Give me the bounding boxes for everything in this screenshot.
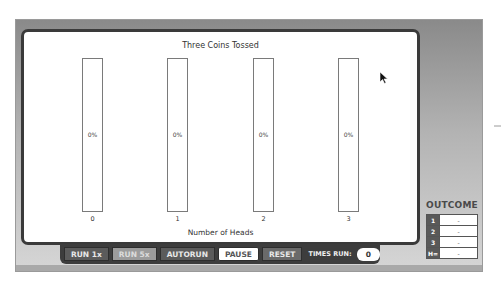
- outcome-value: -: [440, 248, 478, 259]
- bar-percent-label: 0%: [83, 131, 102, 138]
- arrow-left-icon: [494, 124, 501, 128]
- times-run-label: TIMES RUN:: [308, 250, 351, 258]
- coin-toss-simulation: Three Coins Tossed 0% 0% 0% 0% 0 1 2 3 N…: [0, 0, 501, 284]
- run-1x-button[interactable]: RUN 1x: [64, 247, 109, 261]
- bar-percent-label: 0%: [168, 131, 187, 138]
- outcome-key: H=: [427, 248, 440, 259]
- bar-heads-3: 0%: [338, 58, 359, 212]
- outcome-value: -: [440, 215, 478, 226]
- x-axis-label: Number of Heads: [24, 228, 417, 237]
- x-tick-label: 0: [82, 215, 103, 223]
- bar-heads-1: 0%: [167, 58, 188, 212]
- control-bar: RUN 1x RUN 5x AUTORUN PAUSE RESET TIMES …: [60, 244, 380, 264]
- run-5x-button[interactable]: RUN 5x: [112, 247, 157, 261]
- bar-percent-label: 0%: [339, 131, 358, 138]
- outcome-row: 3 -: [427, 237, 478, 248]
- x-tick-label: 3: [338, 215, 359, 223]
- outcome-title: OUTCOME: [426, 200, 478, 213]
- pause-button[interactable]: PAUSE: [218, 247, 259, 261]
- x-tick-label: 2: [253, 215, 274, 223]
- bar-heads-2: 0%: [253, 58, 274, 212]
- outcome-key: 3: [427, 237, 440, 248]
- outcome-row: 2 -: [427, 226, 478, 237]
- outcome-key: 1: [427, 215, 440, 226]
- outcome-key: 2: [427, 226, 440, 237]
- outcome-value: -: [440, 237, 478, 248]
- outcome-row: H= -: [427, 248, 478, 259]
- outcome-row: 1 -: [427, 215, 478, 226]
- chart-title: Three Coins Tossed: [24, 41, 417, 50]
- chart-panel: Three Coins Tossed 0% 0% 0% 0% 0 1 2 3 N…: [21, 29, 420, 245]
- bar-percent-label: 0%: [254, 131, 273, 138]
- outcome-value: -: [440, 226, 478, 237]
- bar-heads-0: 0%: [82, 58, 103, 212]
- times-run-value: 0: [357, 248, 380, 261]
- autorun-button[interactable]: AUTORUN: [160, 247, 215, 261]
- reset-button[interactable]: RESET: [262, 247, 303, 261]
- outcome-panel: OUTCOME 1 - 2 - 3 - H= -: [426, 200, 478, 259]
- outcome-table: 1 - 2 - 3 - H= -: [426, 214, 478, 259]
- x-tick-label: 1: [167, 215, 188, 223]
- mouse-cursor-icon: [379, 72, 389, 84]
